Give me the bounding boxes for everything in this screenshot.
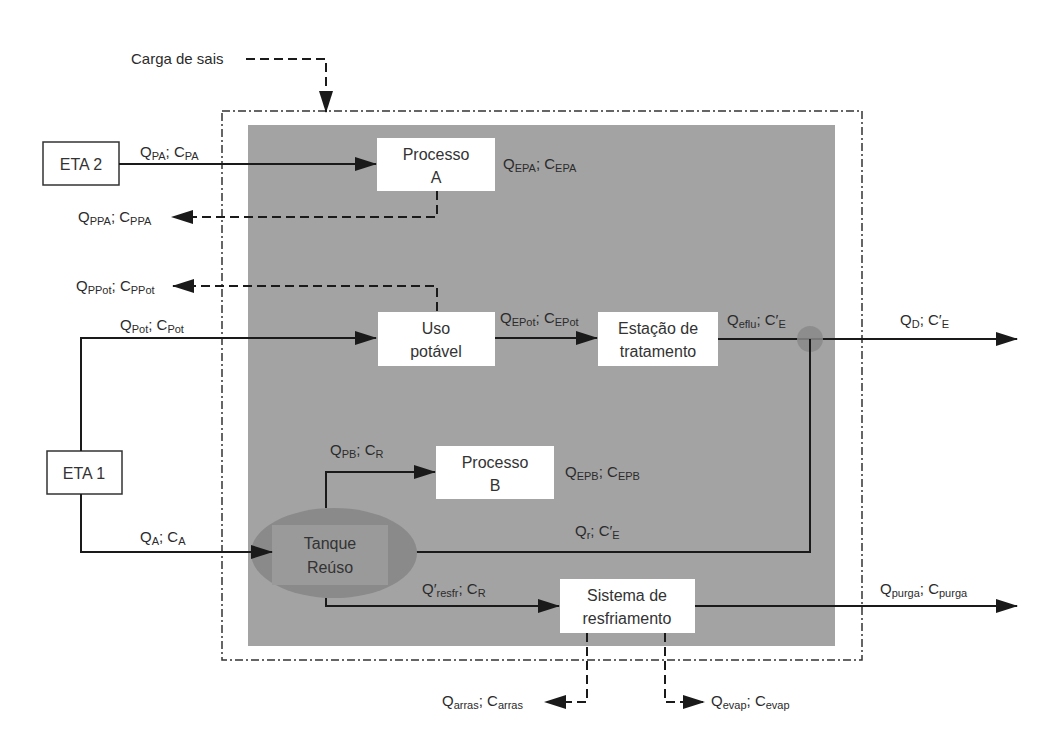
svg-text:Reúso: Reúso	[307, 559, 353, 576]
svg-text:potável: potável	[410, 343, 462, 360]
node-uso-potavel[interactable]: Uso potável	[378, 312, 495, 366]
svg-text:Sistema de: Sistema de	[587, 587, 667, 604]
node-eta1[interactable]: ETA 1	[47, 451, 122, 494]
label-qarras: Qarras; Carras	[442, 692, 523, 711]
node-processo-a[interactable]: Processo A	[377, 138, 495, 191]
salt-load-arrow	[246, 59, 326, 112]
water-balance-diagram: Carga de sais ETA 2 QPA; CPA Processo A …	[0, 0, 1058, 747]
svg-text:ETA 1: ETA 1	[63, 465, 105, 482]
node-eta2[interactable]: ETA 2	[43, 142, 119, 185]
svg-text:resfriamento: resfriamento	[583, 610, 672, 627]
node-estacao-tratamento[interactable]: Estação de tratamento	[598, 312, 718, 366]
svg-text:B: B	[490, 477, 501, 494]
label-qevap: Qevap; Cevap	[711, 692, 790, 711]
label-qpa: QPA; CPA	[140, 143, 199, 162]
node-processo-b[interactable]: Processo B	[436, 446, 554, 499]
label-qpurga: Qpurga; Cpurga	[880, 580, 968, 599]
svg-text:Tanque: Tanque	[304, 535, 357, 552]
label-qpot: QPot; CPot	[120, 316, 184, 335]
label-qeflu: Qeflu; C′E	[727, 311, 786, 330]
svg-text:Processo: Processo	[403, 146, 470, 163]
svg-text:tratamento: tratamento	[620, 343, 697, 360]
label-qd: QD; C′E	[900, 311, 949, 330]
svg-text:A: A	[431, 169, 442, 186]
label-qppa: QPPA; CPPA	[78, 208, 152, 227]
label-qa: QA; CA	[140, 528, 186, 547]
svg-text:Estação de: Estação de	[618, 320, 698, 337]
node-tanque-reuso[interactable]: Tanque Reúso	[251, 508, 417, 598]
svg-text:Processo: Processo	[462, 454, 529, 471]
svg-text:ETA 2: ETA 2	[60, 156, 102, 173]
node-sistema-resfriamento[interactable]: Sistema de resfriamento	[560, 579, 695, 633]
label-qppot: QPPot; CPPot	[76, 277, 155, 296]
svg-text:Uso: Uso	[422, 320, 451, 337]
label-qpb: QPB; CR	[330, 441, 384, 460]
salt-load-label: Carga de sais	[131, 50, 224, 67]
